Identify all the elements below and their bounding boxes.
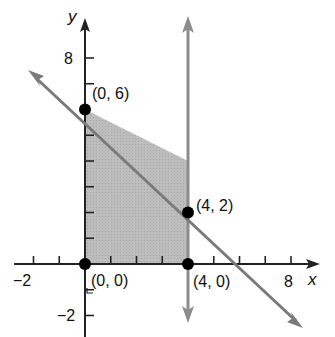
x-axis-title: x	[307, 270, 317, 289]
x-tick-label-neg2: −2	[13, 272, 31, 289]
line-x-plus-y-equals-6	[28, 70, 303, 328]
y-tick-label-neg2: −2	[57, 307, 75, 324]
feasible-region	[85, 110, 188, 265]
point-0-0	[79, 258, 91, 270]
point-4-0	[182, 258, 194, 270]
y-tick-label-8: 8	[64, 50, 73, 67]
point-4-2	[182, 207, 194, 219]
point-label-0-6: (0, 6)	[92, 85, 129, 102]
point-label-4-0: (4, 0)	[193, 273, 230, 290]
y-axis-title: y	[67, 7, 78, 26]
x-tick-label-8: 8	[284, 273, 293, 290]
chart-canvas: y x 8 −2 −2 8 (0, 6) (4, 2) (0, 0) (4, 0…	[0, 0, 335, 337]
point-label-0-0: (0, 0)	[91, 272, 128, 289]
point-label-4-2: (4, 2)	[196, 197, 233, 214]
point-0-6	[79, 104, 91, 116]
